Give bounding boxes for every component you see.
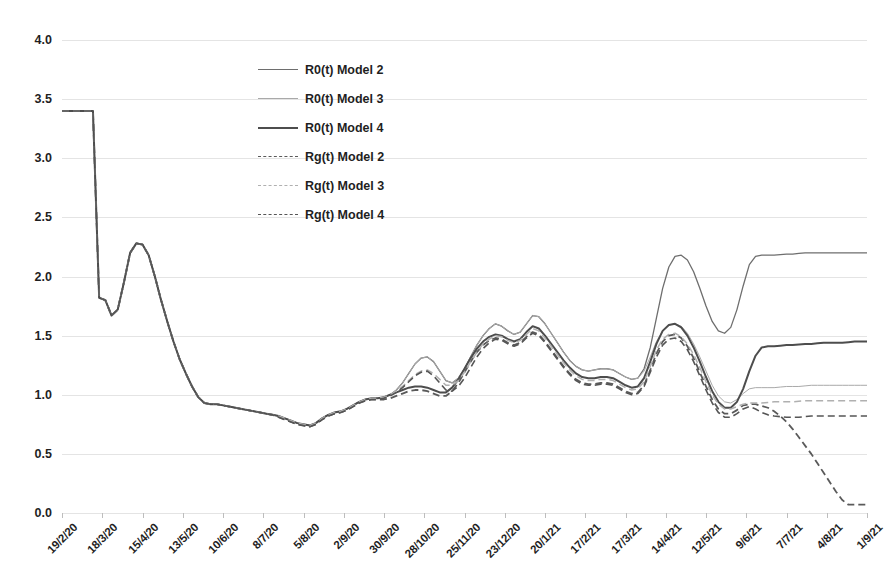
x-axis-tick-label: 2/9/20 xyxy=(331,521,361,551)
y-axis-tick-label: 2.0 xyxy=(2,270,52,284)
legend-label: R0(t) Model 2 xyxy=(305,63,383,77)
x-axis: 19/2/2018/3/2015/4/2013/5/2010/6/208/7/2… xyxy=(62,515,867,584)
x-axis-tick-label: 4/8/21 xyxy=(814,521,844,551)
y-axis-tick-label: 3.5 xyxy=(2,92,52,106)
x-axis-tick-label: 18/3/20 xyxy=(85,521,120,556)
x-axis-tick-label: 17/3/21 xyxy=(608,521,643,556)
legend-item[interactable]: R0(t) Model 3 xyxy=(258,84,488,113)
y-axis-tick-label: 0.0 xyxy=(2,506,52,520)
legend-item[interactable]: R0(t) Model 2 xyxy=(258,55,488,84)
x-axis-tick-label: 12/5/21 xyxy=(689,521,724,556)
x-axis-tick-label: 10/6/20 xyxy=(206,521,241,556)
legend-item[interactable]: Rg(t) Model 3 xyxy=(258,171,488,200)
x-axis-tick-label: 14/4/21 xyxy=(649,521,684,556)
x-axis-tick-label: 20/1/21 xyxy=(528,521,563,556)
x-axis-tick-label: 23/12/20 xyxy=(483,521,522,560)
legend-label: R0(t) Model 4 xyxy=(305,121,383,135)
x-axis-tick-label: 13/5/20 xyxy=(166,521,201,556)
x-axis-tick-label: 28/10/20 xyxy=(403,521,442,560)
y-axis-tick-label: 1.5 xyxy=(2,329,52,343)
legend-label: R0(t) Model 3 xyxy=(305,92,383,106)
y-axis-tick-label: 0.5 xyxy=(2,447,52,461)
x-axis-tick-label: 17/2/21 xyxy=(568,521,603,556)
x-axis-tick-label: 25/11/20 xyxy=(443,521,482,560)
y-axis-tick-label: 1.0 xyxy=(2,388,52,402)
legend-item[interactable]: R0(t) Model 4 xyxy=(258,113,488,142)
x-axis-tick-label: 7/7/21 xyxy=(774,521,804,551)
y-axis: 4.03.53.02.52.01.51.00.50.0 xyxy=(0,40,56,513)
legend-item[interactable]: Rg(t) Model 2 xyxy=(258,142,488,171)
x-axis-tick-label: 8/7/20 xyxy=(250,521,280,551)
x-axis-tick-label: 19/2/20 xyxy=(45,521,80,556)
legend-label: Rg(t) Model 4 xyxy=(305,208,384,222)
x-axis-tick-label: 30/9/20 xyxy=(367,521,402,556)
legend-label: Rg(t) Model 3 xyxy=(305,179,384,193)
x-axis-tick-mark xyxy=(867,513,868,518)
x-axis-tick-label: 5/8/20 xyxy=(291,521,321,551)
y-axis-tick-label: 2.5 xyxy=(2,210,52,224)
y-axis-tick-label: 3.0 xyxy=(2,151,52,165)
x-axis-tick-label: 15/4/20 xyxy=(125,521,160,556)
legend-label: Rg(t) Model 2 xyxy=(305,150,384,164)
chart-legend: R0(t) Model 2R0(t) Model 3R0(t) Model 4R… xyxy=(258,55,488,229)
x-axis-tick-label: 1/9/21 xyxy=(854,521,884,551)
legend-item[interactable]: Rg(t) Model 4 xyxy=(258,200,488,229)
y-axis-tick-label: 4.0 xyxy=(2,33,52,47)
x-axis-tick-label: 9/6/21 xyxy=(733,521,763,551)
